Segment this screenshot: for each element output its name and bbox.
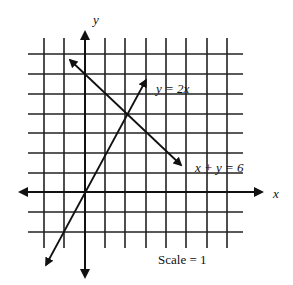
scale-label: Scale = 1 <box>158 252 206 267</box>
label-y-equals-2x: y = 2x <box>154 81 190 96</box>
coordinate-graph: y x y = 2x x + y = 6 Scale = 1 <box>0 0 293 285</box>
y-axis-label: y <box>91 12 99 27</box>
x-axis-label: x <box>272 186 279 201</box>
label-x-plus-y-equals-6: x + y = 6 <box>194 160 244 175</box>
grid <box>28 38 243 248</box>
